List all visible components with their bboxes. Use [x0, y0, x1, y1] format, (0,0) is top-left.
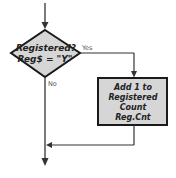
arrow-down-icon	[131, 71, 137, 78]
decision-text-line2: Reg$ = "Y"	[18, 54, 73, 64]
process-node: Add 1 to Registered Count Reg.Cnt	[98, 78, 167, 125]
arrow-down-icon	[42, 22, 49, 29]
process-text-line3: Count	[120, 103, 148, 112]
process-text-line1: Add 1 to	[113, 83, 152, 92]
merge-connector	[46, 125, 134, 148]
yes-label: Yes	[81, 44, 93, 52]
no-connector: No	[42, 77, 57, 166]
process-text-line4: Reg.Cnt	[115, 113, 152, 122]
no-label: No	[48, 80, 57, 88]
process-text-line2: Registered	[109, 93, 158, 102]
yes-connector: Yes	[80, 44, 137, 78]
flowchart: Registered? Reg$ = "Y" Yes Add 1 to Regi…	[0, 0, 176, 178]
decision-text-line1: Registered?	[16, 43, 76, 53]
arrow-left-icon	[46, 142, 52, 148]
decision-node: Registered? Reg$ = "Y"	[11, 30, 80, 77]
arrow-down-icon	[42, 158, 49, 166]
entry-connector	[42, 3, 49, 29]
